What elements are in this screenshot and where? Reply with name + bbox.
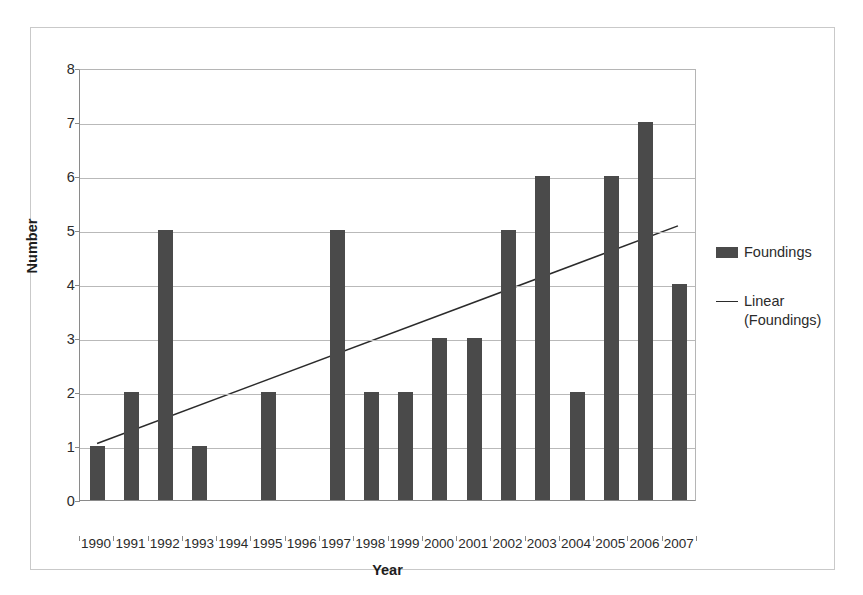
gridline	[80, 124, 695, 125]
bar[interactable]	[432, 338, 447, 500]
x-tick-mark	[456, 536, 457, 541]
bar[interactable]	[124, 392, 139, 500]
legend-bar-swatch-icon	[716, 247, 738, 258]
y-tick-label: 3	[49, 331, 75, 347]
bar[interactable]	[570, 392, 585, 500]
legend-label-linear-line2: (Foundings)	[716, 311, 821, 330]
bar[interactable]	[364, 392, 379, 500]
legend-label-foundings: Foundings	[744, 243, 812, 262]
x-tick-mark	[319, 536, 320, 541]
y-tick-label: 0	[49, 493, 75, 509]
bar[interactable]	[398, 392, 413, 500]
x-tick-mark	[113, 536, 114, 541]
legend-item-linear-foundings[interactable]: Linear (Foundings)	[716, 292, 821, 330]
legend-item-foundings[interactable]: Foundings	[716, 243, 821, 262]
y-tick-mark	[75, 501, 80, 502]
legend-label-linear: Linear	[744, 292, 784, 311]
bar[interactable]	[158, 230, 173, 500]
x-tick-mark	[353, 536, 354, 541]
y-tick-label: 4	[49, 277, 75, 293]
y-tick-label: 1	[49, 439, 75, 455]
bar[interactable]	[672, 284, 687, 500]
bar[interactable]	[330, 230, 345, 500]
y-axis: 012345678	[41, 69, 75, 501]
x-tick-mark	[662, 536, 663, 541]
x-tick-mark	[250, 536, 251, 541]
y-tick-label: 6	[49, 169, 75, 185]
x-tick-mark	[627, 536, 628, 541]
bar[interactable]	[261, 392, 276, 500]
legend-line-swatch-icon	[716, 296, 738, 307]
bar[interactable]	[604, 176, 619, 500]
y-tick-label: 7	[49, 115, 75, 131]
bar[interactable]	[535, 176, 550, 500]
bar[interactable]	[467, 338, 482, 500]
chart-legend: Foundings Linear (Foundings)	[716, 243, 821, 360]
y-tick-label: 5	[49, 223, 75, 239]
bar[interactable]	[501, 230, 516, 500]
x-tick-mark	[490, 536, 491, 541]
x-tick-mark	[216, 536, 217, 541]
plot-area	[79, 69, 696, 501]
x-tick-mark	[593, 536, 594, 541]
x-tick-mark	[79, 536, 80, 541]
bar[interactable]	[90, 446, 105, 500]
y-axis-title: Number	[24, 219, 40, 274]
chart-frame: 012345678 Number 19901991199219931994199…	[30, 27, 835, 570]
x-tick-mark	[696, 536, 697, 541]
gridline	[80, 178, 695, 179]
y-tick-label: 2	[49, 385, 75, 401]
y-tick-label: 8	[49, 61, 75, 77]
x-tick-mark	[285, 536, 286, 541]
bar[interactable]	[638, 122, 653, 500]
x-axis: 1990199119921993199419951996199719981999…	[79, 536, 696, 560]
x-tick-mark	[422, 536, 423, 541]
x-tick-mark	[525, 536, 526, 541]
x-tick-mark	[388, 536, 389, 541]
x-axis-title: Year	[79, 562, 696, 578]
x-tick-mark	[182, 536, 183, 541]
bar[interactable]	[192, 446, 207, 500]
x-tick-mark	[559, 536, 560, 541]
x-tick-mark	[148, 536, 149, 541]
